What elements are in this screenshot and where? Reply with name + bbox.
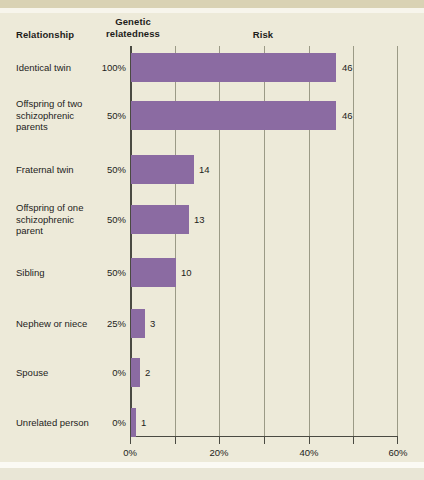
bar: [131, 408, 136, 437]
x-tick-10: [175, 437, 176, 444]
row-relatedness: 100%: [100, 62, 126, 73]
bar-value: 3: [150, 309, 155, 338]
x-axis-label-0: 0%: [110, 447, 150, 458]
chart-row: Fraternal twin 50% 14: [0, 155, 424, 184]
bar-value: 1: [141, 408, 146, 437]
column-header-genetic-relatedness: Genetic relatedness: [97, 16, 169, 39]
row-label: Sibling: [16, 267, 100, 279]
bar-value: 46: [342, 101, 353, 130]
x-tick-40: [309, 437, 310, 444]
bar: [131, 53, 336, 82]
x-tick-0: [130, 437, 131, 444]
bar: [131, 155, 194, 184]
chart-row: Spouse 0% 2: [0, 358, 424, 387]
chart-row: Identical twin 100% 46: [0, 53, 424, 82]
chart-row: Unrelated person 0% 1: [0, 408, 424, 437]
bar: [131, 101, 336, 130]
row-relatedness: 0%: [100, 417, 126, 428]
row-label: Offspring of one schizophrenic parent: [16, 202, 100, 237]
row-label: Offspring of two schizophrenic parents: [16, 98, 100, 133]
genetic-header-line2: relatedness: [97, 28, 169, 40]
top-border-strip: [0, 0, 424, 8]
chart-row: Sibling 50% 10: [0, 258, 424, 287]
bar-value: 2: [145, 358, 150, 387]
bar-value: 46: [342, 53, 353, 82]
bar: [131, 358, 140, 387]
chart-row: Nephew or niece 25% 3: [0, 309, 424, 338]
bar: [131, 258, 176, 287]
row-label: Identical twin: [16, 62, 100, 74]
row-relatedness: 50%: [100, 214, 126, 225]
row-relatedness: 25%: [100, 318, 126, 329]
bar: [131, 309, 145, 338]
genetic-header-line1: Genetic: [97, 16, 169, 28]
row-relatedness: 50%: [100, 267, 126, 278]
row-label: Fraternal twin: [16, 164, 100, 176]
x-tick-30: [264, 437, 265, 444]
x-tick-50: [353, 437, 354, 444]
x-tick-20: [219, 437, 220, 444]
column-header-risk: Risk: [230, 29, 296, 40]
bar-value: 10: [181, 258, 192, 287]
bar-value: 14: [199, 155, 210, 184]
top-gap-strip: [0, 8, 424, 13]
row-label: Spouse: [16, 367, 100, 379]
row-relatedness: 50%: [100, 164, 126, 175]
x-axis-label-60: 60%: [378, 447, 418, 458]
row-label: Nephew or niece: [16, 318, 100, 330]
x-axis-label-20: 20%: [199, 447, 239, 458]
x-tick-60: [397, 437, 398, 444]
bar-value: 13: [194, 205, 205, 234]
row-label: Unrelated person: [16, 417, 100, 429]
bottom-border-strip: [0, 468, 424, 480]
chart-figure: Relationship Genetic relatedness Risk Id…: [0, 0, 424, 480]
chart-row: Offspring of one schizophrenic parent 50…: [0, 205, 424, 234]
bar: [131, 205, 189, 234]
row-relatedness: 0%: [100, 367, 126, 378]
row-relatedness: 50%: [100, 110, 126, 121]
column-header-relationship: Relationship: [16, 29, 74, 40]
chart-row: Offspring of two schizophrenic parents 5…: [0, 101, 424, 130]
x-axis-label-40: 40%: [289, 447, 329, 458]
